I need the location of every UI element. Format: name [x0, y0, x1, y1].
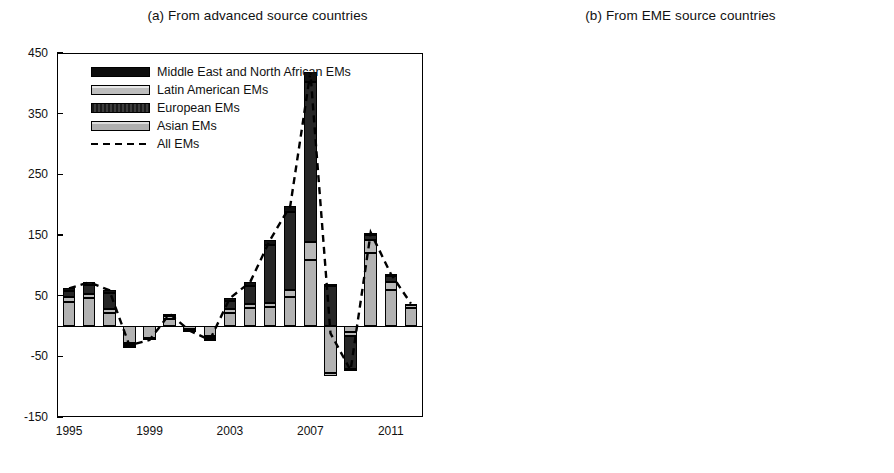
legend-item-latam: Latin American EMs: [91, 81, 351, 98]
legend-item-mena: Middle East and North African EMs: [91, 63, 351, 80]
legend-label-latam: Latin American EMs: [157, 83, 268, 97]
panel-a-title: (a) From advanced source countries: [0, 8, 481, 23]
bar-segment-euro: [244, 286, 256, 304]
bar-segment-euro: [224, 301, 236, 309]
legend-swatch-asia-icon: [91, 121, 150, 131]
bar-segment-mena: [324, 284, 336, 286]
legend-swatch-mena-icon: [91, 67, 150, 77]
bar-segment-euro: [385, 276, 397, 282]
stacked-bar[interactable]: [385, 53, 397, 417]
bar-segment-asia: [385, 290, 397, 326]
legend-item-asia: Asian EMs: [91, 117, 351, 134]
bar-segment-asia: [123, 326, 135, 343]
bar-segment-latam: [103, 309, 115, 313]
bar-segment-latam: [224, 309, 236, 313]
bar-segment-mena: [405, 304, 417, 306]
bar-segment-latam: [324, 373, 336, 375]
x-tick-label: 1995: [56, 424, 83, 438]
legend-swatch-dashed-line-icon: [91, 139, 150, 149]
panel-a-plot-area: Middle East and North African EMs Latin …: [57, 53, 423, 417]
bar-segment-asia: [143, 326, 155, 338]
figure-root: (a) From advanced source countries Middl…: [0, 0, 894, 473]
bar-segment-asia: [244, 308, 256, 326]
bar-segment-euro: [324, 286, 336, 326]
y-tick-label: 250: [28, 167, 57, 181]
bar-segment-euro: [183, 330, 195, 332]
bar-segment-mena: [364, 233, 376, 235]
legend-label-all-ems: All EMs: [157, 137, 199, 151]
legend-label-euro: European EMs: [157, 101, 240, 115]
bar-segment-mena: [103, 290, 115, 292]
bar-segment-asia: [83, 298, 95, 326]
bar-segment-euro: [364, 235, 376, 240]
bar-segment-latam: [385, 282, 397, 289]
y-tick-label: -50: [31, 349, 57, 363]
bar-segment-latam: [284, 290, 296, 297]
x-tick-label: 1999: [136, 424, 163, 438]
legend-label-mena: Middle East and North African EMs: [157, 65, 351, 79]
stacked-bar[interactable]: [405, 53, 417, 417]
bar-segment-euro: [103, 293, 115, 309]
bar-segment-mena: [244, 282, 256, 286]
bar-segment-asia: [364, 253, 376, 326]
bar-segment-euro: [83, 285, 95, 295]
bar-segment-euro: [344, 336, 356, 369]
bar-segment-euro: [264, 245, 276, 303]
x-tick-label: 2007: [297, 424, 324, 438]
legend: Middle East and North African EMs Latin …: [91, 63, 351, 153]
stacked-bar[interactable]: [364, 53, 376, 417]
y-tick-label: -150: [24, 410, 57, 424]
bar-segment-asia: [304, 260, 316, 326]
bar-segment-asia: [163, 319, 175, 326]
bar-segment-euro: [63, 291, 75, 297]
x-tick-label: 2011: [378, 424, 404, 438]
bar-segment-asia: [284, 297, 296, 326]
panel-eme-source-countries: (b) From EME source countries 1062-2 200…: [447, 0, 894, 473]
bar-segment-latam: [83, 294, 95, 298]
bar-segment-asia: [324, 326, 336, 373]
x-tick-label: 2003: [217, 424, 244, 438]
legend-item-euro: European EMs: [91, 99, 351, 116]
y-tick-label: 150: [28, 228, 57, 242]
bar-segment-asia: [264, 307, 276, 326]
bar-segment-latam: [364, 240, 376, 253]
bar-segment-mena: [385, 274, 397, 276]
bar-segment-mena: [224, 298, 236, 300]
y-tick-label: 50: [35, 289, 57, 303]
bar-segment-latam: [304, 242, 316, 260]
bar-segment-mena: [344, 369, 356, 371]
bar-segment-asia: [405, 308, 417, 326]
y-tick-label: 350: [28, 107, 57, 121]
bar-segment-asia: [103, 313, 115, 326]
panel-advanced-source-countries: (a) From advanced source countries Middl…: [0, 0, 447, 473]
panel-a-zero-line: [57, 326, 423, 327]
bar-segment-mena: [284, 206, 296, 212]
bar-segment-mena: [63, 288, 75, 290]
bar-segment-euro: [284, 212, 296, 290]
legend-swatch-euro-icon: [91, 103, 150, 113]
bar-segment-mena: [264, 240, 276, 245]
bar-segment-latam: [244, 304, 256, 308]
bar-segment-asia: [224, 313, 236, 326]
panel-b-title: (b) From EME source countries: [447, 8, 894, 23]
stacked-bar[interactable]: [63, 53, 75, 417]
bar-segment-latam: [143, 338, 155, 340]
legend-label-asia: Asian EMs: [157, 119, 217, 133]
bar-segment-latam: [63, 297, 75, 302]
bar-segment-latam: [264, 303, 276, 307]
bar-segment-mena: [204, 339, 216, 341]
legend-swatch-latam-icon: [91, 85, 150, 95]
y-tick-label: 450: [28, 46, 57, 60]
bar-segment-mena: [123, 346, 135, 348]
bar-segment-mena: [83, 282, 95, 284]
bar-segment-asia: [204, 326, 216, 336]
bar-segment-mena: [163, 314, 175, 316]
legend-item-all-ems: All EMs: [91, 135, 351, 152]
bar-segment-asia: [63, 302, 75, 326]
